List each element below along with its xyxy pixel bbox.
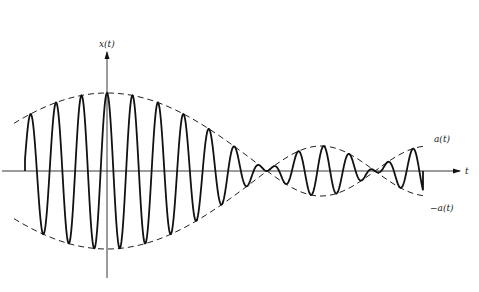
upper-envelope-label: a(t): [434, 134, 450, 144]
lower-envelope-label: −a(t): [430, 203, 454, 213]
x-axis-label: t: [465, 166, 469, 176]
upper-envelope-curve: [14, 93, 425, 196]
y-axis-label: x(t): [99, 39, 115, 49]
amplitude-modulated-signal-figure: x(t) t a(t) −a(t): [0, 0, 479, 292]
